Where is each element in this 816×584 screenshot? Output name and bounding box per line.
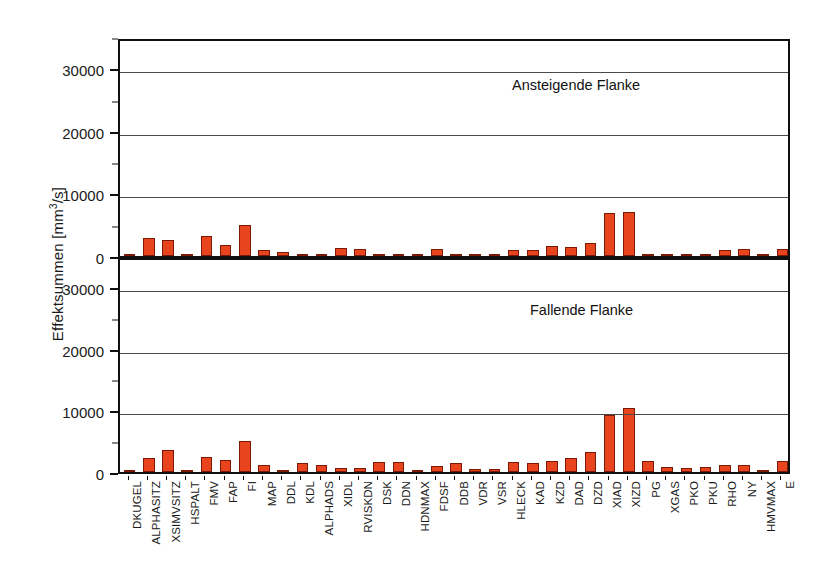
bar-bottom-E [777,461,789,472]
y-tick-label-top-30000: 30000 [30,63,104,78]
x-tick-mark-DSK [377,476,378,480]
gridline-top-10000 [120,197,788,198]
bar-bottom-FAP [220,460,232,472]
x-axis-labels: DKUGELALPHASITZXSIMVSITZHSPALTFMVFAPFIMA… [118,476,790,576]
x-tick-mark-FMV [204,476,205,480]
x-tick-mark-PG [646,476,647,480]
bar-bottom-MAP [258,465,270,472]
x-tick-mark-HMVMAX [761,476,762,480]
bar-bottom-HDNMAX [412,470,424,473]
x-tick-mark-KAD [531,476,532,480]
bar-top-HDNMAX [412,254,424,257]
bar-bottom-XSIMVSITZ [162,450,174,472]
x-tick-label-HDNMAX: HDNMAX [420,481,432,531]
bar-top-MAP [258,250,270,256]
bar-bottom-XIDL [335,468,347,472]
x-tick-mark-DDB [454,476,455,480]
x-tick-mark-FDSF [435,476,436,480]
x-tick-label-DZD: DZD [593,481,605,505]
x-tick-mark-FI [243,476,244,480]
gridline-top-20000 [120,135,788,136]
x-tick-mark-XIAD [608,476,609,480]
panel-note-ansteigende-flanke: Ansteigende Flanke [512,77,640,93]
x-tick-label-VDR: VDR [478,481,490,506]
bar-bottom-PKU [700,467,712,472]
x-tick-label-FMV: FMV [209,481,221,506]
x-tick-label-DSK: DSK [382,481,394,505]
x-tick-mark-MAP [262,476,263,480]
x-tick-label-KAD: KAD [535,481,547,505]
x-tick-label-DDL: DDL [286,481,298,504]
x-tick-label-E: E [785,481,797,489]
bar-top-DKUGEL [124,254,136,257]
x-tick-mark-ALPHADS [320,476,321,480]
x-tick-mark-DDL [281,476,282,480]
bar-top-PG [642,254,654,257]
bar-bottom-FDSF [431,466,443,472]
bar-bottom-HLECK [508,462,520,472]
bar-bottom-DDN [393,462,405,472]
bar-bottom-ALPHASITZ [143,458,155,472]
bar-top-XIZD [623,212,635,256]
bar-top-XIAD [604,213,616,256]
bar-top-KAD [527,250,539,256]
bar-bottom-RHO [719,465,731,472]
y-tick-label-top-0: 0 [30,251,104,266]
x-tick-mark-XGAS [665,476,666,480]
x-tick-label-KZD: KZD [555,481,567,504]
bar-bottom-DKUGEL [124,470,136,473]
bar-bottom-NY [738,465,750,472]
bar-top-KDL [297,254,309,257]
bar-bottom-DSK [373,462,385,472]
x-tick-mark-ALPHASITZ [147,476,148,480]
x-tick-mark-PKO [684,476,685,480]
bar-bottom-HMVMAX [757,470,769,473]
bar-top-KZD [546,246,558,256]
y-tick-mark-bottom-0 [110,473,118,475]
bar-bottom-KZD [546,461,558,472]
x-tick-label-VSR: VSR [497,481,509,505]
bar-bottom-KDL [297,463,309,472]
bar-top-HMVMAX [757,254,769,257]
bar-top-NY [738,249,750,257]
bar-top-FMV [201,236,213,256]
y-tick-mark-top-10000 [110,194,118,196]
bar-bottom-VDR [469,469,481,472]
bar-top-XSIMVSITZ [162,240,174,256]
x-tick-label-KDL: KDL [305,481,317,504]
x-tick-mark-NY [742,476,743,480]
y-tick-mark-bottom-20000 [110,350,118,352]
bar-top-DDL [277,252,289,256]
x-tick-label-DDN: DDN [401,481,413,506]
bar-top-PKU [700,254,712,257]
y-tick-label-bottom-0: 0 [30,467,104,482]
bar-top-HSPALT [181,254,193,257]
x-tick-label-DKUGEL: DKUGEL [132,481,144,529]
bar-top-FI [239,225,251,256]
bar-bottom-DDL [277,470,289,473]
bar-bottom-VSR [489,469,501,472]
x-tick-mark-KDL [300,476,301,480]
x-tick-label-FI: FI [247,481,259,491]
bar-top-DDN [393,254,405,257]
x-tick-label-FDSF: FDSF [439,481,451,511]
x-tick-label-MAP: MAP [267,481,279,506]
x-tick-mark-DKUGEL [128,476,129,480]
bar-bottom-DAD [565,458,577,472]
bar-bottom-XIAD [604,415,616,472]
y-tick-mark-bottom-30000 [110,288,118,290]
x-tick-mark-XIZD [627,476,628,480]
bar-bottom-XGAS [661,467,673,472]
bar-bottom-HSPALT [181,470,193,473]
x-tick-label-ALPHADS: ALPHADS [324,481,336,535]
bar-bottom-FMV [201,457,213,472]
x-tick-mark-XSIMVSITZ [166,476,167,480]
gridline-bottom-30000 [120,291,788,292]
x-tick-mark-HSPALT [185,476,186,480]
bar-top-RHO [719,250,731,256]
bar-bottom-XIZD [623,408,635,472]
bar-top-VSR [489,254,501,257]
bar-top-E [777,249,789,257]
bar-top-FDSF [431,249,443,256]
x-tick-label-XIAD: XIAD [612,481,624,508]
